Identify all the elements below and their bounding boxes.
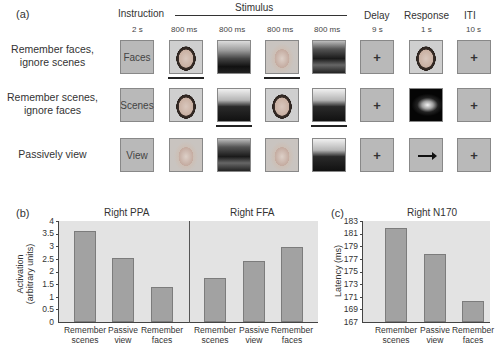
delay-fixation-cross-icon: +	[360, 88, 394, 122]
x-label-line2: faces	[269, 335, 315, 345]
instruction-cue-scenes: Scenes	[120, 88, 154, 122]
target-underline	[168, 77, 204, 79]
y-tick-mark	[56, 309, 59, 310]
y-tick-mark	[56, 259, 59, 260]
x-label: Rememberfaces	[269, 325, 315, 345]
header-stimulus: Stimulus	[232, 2, 276, 13]
y-tick-label: 169	[334, 304, 358, 314]
y-tick-mark	[56, 246, 59, 247]
y-tick-mark	[56, 272, 59, 273]
y-tick-label: 2	[30, 266, 54, 276]
y-tick-label: 171	[334, 292, 358, 302]
scene-image-icon	[217, 40, 251, 74]
y-tick-mark	[360, 234, 363, 235]
instruction-cue-faces: Faces	[120, 40, 154, 74]
y-tick-label: 0.5	[30, 304, 54, 314]
x-label: Rememberfaces	[139, 325, 185, 345]
y-tick-mark	[360, 246, 363, 247]
plus-icon: +	[373, 98, 381, 113]
y-tick-label: 1.5	[30, 279, 54, 289]
right-arrow-icon	[418, 155, 434, 157]
stimulus-bracket-line	[175, 15, 347, 16]
bar-ppa-remember-faces	[151, 287, 173, 322]
header-response: Response	[404, 10, 449, 21]
response-arrow-icon	[409, 138, 443, 172]
header-delay: Delay	[364, 10, 390, 21]
row-label-line1: Remember scenes,	[0, 91, 105, 104]
iti-fixation-cross-icon: +	[457, 88, 491, 122]
face-image-icon	[169, 40, 203, 74]
panel-a-label: (a)	[16, 8, 29, 20]
y-tick-label: 173	[334, 279, 358, 289]
duration-iti: 10 s	[466, 25, 481, 34]
x-label-line2: faces	[450, 335, 496, 345]
ylabel-line1: Activation	[15, 219, 25, 329]
scene-image-icon	[312, 138, 346, 172]
y-tick-mark	[360, 272, 363, 273]
y-tick-mark	[360, 221, 363, 222]
duration-stimulus-4: 800 ms	[314, 25, 340, 34]
target-underline	[264, 77, 300, 79]
y-tick-label: 175	[334, 266, 358, 276]
row-label-line2: ignore faces	[0, 104, 105, 117]
duration-stimulus-3: 800 ms	[267, 25, 293, 34]
y-tick-mark	[56, 297, 59, 298]
bar-n170-remember-faces	[462, 301, 484, 322]
delay-fixation-cross-icon: +	[360, 40, 394, 74]
x-label-line1: Remember	[450, 325, 496, 335]
bar-ffa-remember-faces	[281, 247, 303, 322]
y-tick-label: 4	[30, 216, 54, 226]
y-tick-label: 1	[30, 292, 54, 302]
scene-image-icon	[217, 138, 251, 172]
plus-icon: +	[470, 98, 478, 113]
face-image-icon	[169, 88, 203, 122]
chart-title-right-n170: Right N170	[407, 207, 457, 218]
duration-delay: 9 s	[372, 25, 383, 34]
y-tick-label: 3	[30, 241, 54, 251]
header-iti: ITI	[464, 10, 476, 21]
y-tick-mark	[360, 309, 363, 310]
bar-ppa-remember-scenes	[74, 231, 96, 322]
duration-response: 1 s	[421, 25, 432, 34]
y-tick-label: 179	[334, 241, 358, 251]
plus-icon: +	[470, 148, 478, 163]
plus-icon: +	[470, 50, 478, 65]
row-label-line2: ignore scenes	[0, 56, 105, 69]
x-label: Rememberfaces	[450, 325, 496, 345]
bar-ppa-passive-view	[112, 258, 134, 322]
x-label-line1: Remember	[269, 325, 315, 335]
y-tick-mark	[56, 221, 59, 222]
row-label-line1: Remember faces,	[0, 43, 105, 56]
row-label-remember-scenes: Remember scenes, ignore faces	[0, 91, 105, 117]
y-tick-mark	[360, 259, 363, 260]
x-label-line1: Remember	[139, 325, 185, 335]
panel-b-label: (b)	[16, 207, 29, 219]
face-image-icon	[265, 88, 299, 122]
x-label-line2: faces	[139, 335, 185, 345]
x-axis-c	[362, 322, 490, 323]
response-face-image-icon	[409, 40, 443, 74]
plus-icon: +	[373, 50, 381, 65]
ppa-ffa-divider	[189, 221, 190, 323]
y-tick-label: 0	[30, 317, 54, 327]
face-image-icon	[265, 40, 299, 74]
bar-ffa-passive-view	[243, 261, 265, 322]
duration-stimulus-1: 800 ms	[171, 25, 197, 34]
instruction-cue-view: View	[120, 138, 154, 172]
plus-icon: +	[373, 148, 381, 163]
duration-stimulus-2: 800 ms	[219, 25, 245, 34]
y-tick-label: 183	[334, 216, 358, 226]
row-label-line1: Passively view	[0, 148, 105, 161]
bar-n170-passive-view	[424, 254, 446, 322]
iti-fixation-cross-icon: +	[457, 40, 491, 74]
y-tick-label: 2.5	[30, 254, 54, 264]
face-image-icon	[265, 138, 299, 172]
target-underline	[311, 125, 347, 127]
y-tick-label: 177	[334, 254, 358, 264]
chart-title-right-ffa: Right FFA	[230, 207, 274, 218]
duration-instruction: 2 s	[132, 25, 143, 34]
scene-image-icon	[312, 88, 346, 122]
y-tick-mark	[360, 284, 363, 285]
plot-area-b	[58, 221, 318, 322]
y-tick-label: 181	[334, 228, 358, 238]
